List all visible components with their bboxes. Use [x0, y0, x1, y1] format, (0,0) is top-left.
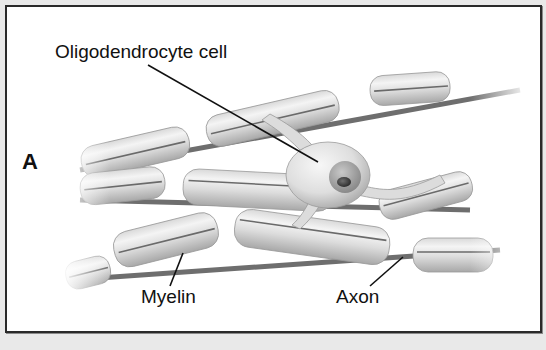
myelin-label: Myelin	[141, 287, 196, 306]
nucleolus	[337, 177, 351, 187]
oligodendrocyte-label: Oligodendrocyte cell	[55, 42, 227, 61]
oligodendrocyte-cell-body	[286, 142, 370, 208]
myelin-leader-line	[170, 253, 183, 286]
panel-letter: A	[22, 151, 38, 173]
axon-row-lower	[63, 207, 500, 291]
axon-label: Axon	[336, 287, 379, 306]
myelin-segment	[110, 209, 222, 270]
myelin-segment	[369, 71, 451, 107]
nucleus	[329, 161, 361, 193]
